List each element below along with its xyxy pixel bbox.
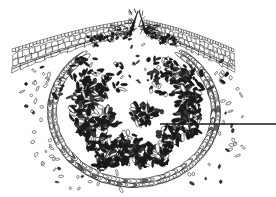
acervulus-cross-section-drawing — [0, 0, 276, 197]
illustration-canvas: Cross-section of a fungal acervulus erup… — [0, 0, 276, 197]
paper-background — [0, 0, 276, 197]
